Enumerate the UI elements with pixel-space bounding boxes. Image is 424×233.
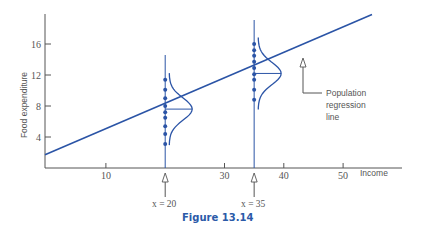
data-point [252,48,256,52]
data-point [252,42,256,46]
arrow-up-icon [300,58,306,67]
data-point [252,54,256,58]
data-point [163,110,167,114]
arrow-up-icon [251,173,257,182]
x-tick-label: 40 [279,170,289,181]
y-tick-label: 16 [31,39,41,50]
data-point [163,124,167,128]
data-point [252,98,256,102]
data-point [252,72,256,76]
data-point [163,116,167,120]
annotation-line1: Population [326,88,366,98]
data-point [163,88,167,92]
data-point [163,78,167,82]
data-point [252,78,256,82]
regression-line [45,14,372,154]
data-point [252,60,256,64]
x-tick-label: 30 [220,170,230,181]
data-point [163,132,167,136]
plot-area [45,14,372,168]
data-point [252,66,256,70]
y-axis-title: Food expenditure [19,72,29,138]
arrow-up-icon [162,173,168,182]
annotation-leader [303,67,322,93]
y-tick-label: 8 [36,101,41,112]
data-point [163,96,167,100]
data-point [163,104,167,108]
x-tick-label: 50 [338,170,348,181]
annotation-line2: regression [326,100,366,110]
data-point [163,142,167,146]
data-point [252,88,256,92]
x20-label: x = 20 [152,199,177,209]
x-tick-label: 10 [101,170,111,181]
y-tick-label: 4 [36,132,41,143]
regression-figure: 48121610304050 Food expenditure Income P… [0,0,424,233]
x35-label: x = 35 [241,199,266,209]
figure-caption: Figure 13.14 [182,212,253,223]
y-tick-label: 12 [31,70,41,81]
annotation-line3: line [326,112,340,122]
x-axis-title: Income [360,168,388,178]
